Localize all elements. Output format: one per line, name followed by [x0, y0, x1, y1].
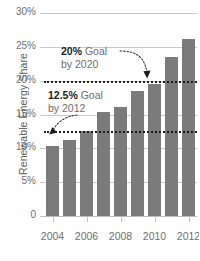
goal-2020-value: 20%: [61, 45, 82, 57]
goal-2012-arrow-icon: [47, 113, 81, 143]
gridline-30: [44, 13, 197, 14]
y-tick-mark-10: [40, 148, 44, 149]
goal-2012-word: Goal: [78, 89, 103, 101]
bar-2012: [182, 39, 195, 216]
goal-2020-annotation-line2: by 2020: [61, 58, 107, 71]
x-tick-label-2010: 2010: [138, 230, 172, 242]
goal-2012-annotation: 12.5% Goal by 2012: [48, 89, 103, 115]
y-tick-mark-5: [40, 182, 44, 183]
y-tick-label-30: 30%: [0, 6, 36, 17]
x-tick-label-2008: 2008: [104, 230, 138, 242]
bar-2009: [131, 91, 144, 216]
bar-2005: [63, 140, 76, 216]
goal-2020-annotation-line1: 20% Goal: [61, 45, 107, 58]
bar-2010: [148, 84, 161, 216]
y-tick-label-10: 10%: [0, 141, 36, 152]
x-tick-label-2012: 2012: [172, 230, 200, 242]
y-tick-label-0: 0: [0, 209, 36, 220]
x-tick-mark-2008: [121, 217, 122, 222]
goal-2012-annotation-line1: 12.5% Goal: [48, 89, 103, 102]
bar-2007: [97, 112, 110, 216]
goal-2020-word: Goal: [82, 45, 107, 57]
x-tick-mark-2012: [189, 217, 190, 222]
y-tick-mark-30: [40, 13, 44, 14]
x-tick-label-2006: 2006: [70, 230, 104, 242]
bar-2004: [46, 146, 59, 216]
y-tick-label-5: 5%: [0, 175, 36, 186]
bar-2008: [114, 107, 127, 216]
goal-2020-annotation: 20% Goal by 2020: [61, 45, 107, 71]
x-tick-mark-2004: [53, 217, 54, 222]
x-tick-mark-2010: [155, 217, 156, 222]
y-tick-label-20: 20%: [0, 74, 36, 85]
y-tick-label-15: 15%: [0, 108, 36, 119]
goal-2020-arrow-icon: [118, 47, 158, 87]
y-tick-mark-15: [40, 115, 44, 116]
x-tick-label-2004: 2004: [36, 230, 70, 242]
y-tick-mark-25: [40, 47, 44, 48]
renewable-energy-share-chart: Renewable Energy Share 30%25%20%15%10%5%…: [0, 0, 199, 261]
goal-2012-value: 12.5%: [48, 89, 78, 101]
y-tick-label-25: 25%: [0, 40, 36, 51]
x-tick-mark-2006: [87, 217, 88, 222]
bar-2006: [80, 131, 93, 216]
